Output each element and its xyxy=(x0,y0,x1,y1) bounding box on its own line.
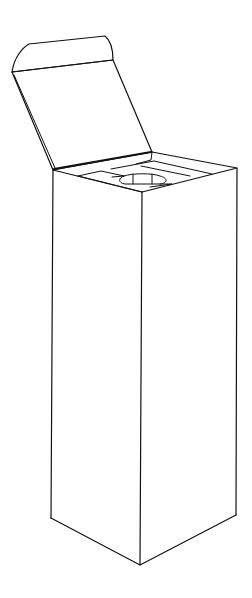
box-top-opening xyxy=(53,152,237,192)
right-face xyxy=(236,168,237,515)
insert-with-cutout xyxy=(78,161,212,192)
front-edge xyxy=(140,192,142,565)
left-face xyxy=(51,170,53,518)
box-illustration xyxy=(0,0,252,598)
bottom-edges xyxy=(51,515,236,565)
lid-panel xyxy=(12,60,152,170)
box-drawing xyxy=(0,0,252,598)
